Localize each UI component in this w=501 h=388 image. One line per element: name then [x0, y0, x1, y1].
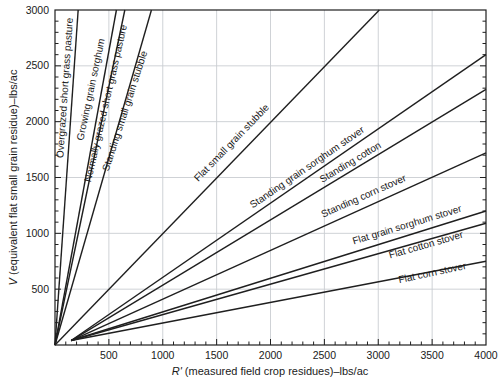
y-axis-tick-label: 1500 [26, 171, 50, 183]
x-axis-tick-label: 3500 [420, 349, 444, 361]
y-axis-tick-label: 2500 [26, 59, 50, 71]
series-label: Standing corn stover [319, 172, 408, 220]
x-axis-tick-label: 2000 [259, 349, 283, 361]
y-axis-tick-label: 3000 [26, 4, 50, 16]
y-axis-tick-label: 2000 [26, 115, 50, 127]
x-axis-title: R' (measured field crop residues)–lbs/ac [172, 365, 369, 377]
series-labels: Overgrazed short grass pastureGrowing gr… [54, 17, 468, 285]
series-label: Flat corn stover [397, 260, 467, 285]
wind-erosion-residue-conversion-chart: Overgrazed short grass pastureGrowing gr… [0, 0, 501, 388]
y-axis-title: V (equivalent flat small grain residue)–… [7, 69, 19, 285]
y-axis-tick-label: 500 [31, 283, 49, 295]
chart-canvas: Overgrazed short grass pastureGrowing gr… [0, 0, 501, 388]
x-axis-tick-label: 500 [100, 349, 118, 361]
x-axis-tick-label: 1000 [151, 349, 175, 361]
x-axis-tick-label: 4000 [474, 349, 498, 361]
series-label: Flat small grain stubble [192, 101, 272, 183]
x-axis-title-text: (measured field crop residues)–lbs/ac [182, 365, 369, 377]
y-axis-tick-label: 1000 [26, 227, 50, 239]
x-axis-tick-label: 1500 [205, 349, 229, 361]
x-axis-tick-label: 3000 [367, 349, 391, 361]
x-axis-tick-label: 2500 [313, 349, 337, 361]
y-axis-title-text: (equivalent flat small grain residue)–lb… [7, 69, 19, 278]
